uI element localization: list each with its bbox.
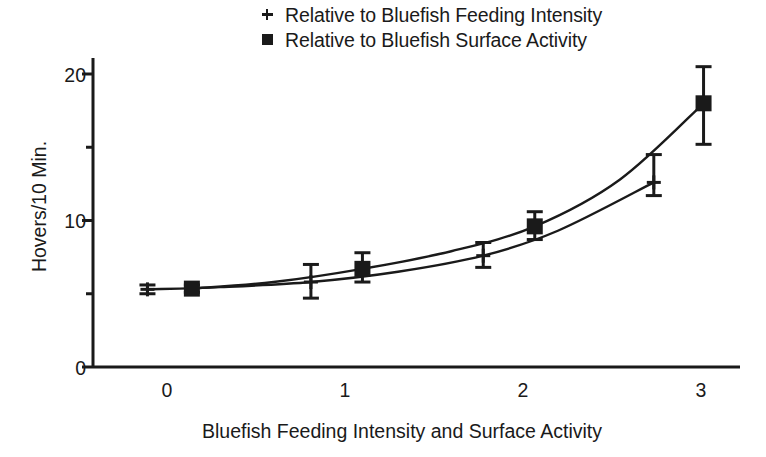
plus-data-marker — [476, 249, 490, 263]
square-data-marker — [354, 261, 370, 277]
fitted-curves — [147, 103, 703, 289]
y-axis-ticks — [82, 74, 93, 367]
axis-lines — [82, 58, 740, 367]
error-bar — [646, 155, 662, 196]
square-data-marker — [696, 95, 712, 111]
plot-area — [0, 0, 766, 457]
fitted-curve — [147, 182, 653, 289]
plus-data-marker — [647, 175, 661, 189]
square-data-marker — [527, 218, 543, 234]
error-bars — [139, 67, 711, 298]
chart-figure: Relative to Bluefish Feeding Intensity R… — [0, 0, 766, 457]
square-data-marker — [184, 281, 200, 297]
